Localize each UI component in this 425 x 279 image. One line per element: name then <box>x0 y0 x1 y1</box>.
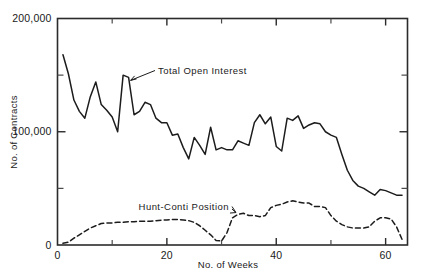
open-interest-line-chart: 0100,000200,000 0204060 Total Open Inter… <box>0 0 425 279</box>
x-axis-title: No. of Weeks <box>198 259 258 270</box>
x-tick-label: 40 <box>270 249 282 261</box>
x-tick-label: 60 <box>380 249 392 261</box>
x-tick-label: 20 <box>161 249 173 261</box>
chart-figure: 0100,000200,000 0204060 Total Open Inter… <box>0 0 425 279</box>
y-axis-title: No. of Contracts <box>8 95 19 168</box>
annotation-total-open-interest: Total Open Interest <box>158 65 247 76</box>
annotation-hunt-conti-position: Hunt-Conti Position <box>139 201 229 212</box>
y-tick-label: 200,000 <box>12 12 51 24</box>
x-tick-label: 0 <box>54 249 60 261</box>
y-tick-label: 0 <box>45 239 51 251</box>
